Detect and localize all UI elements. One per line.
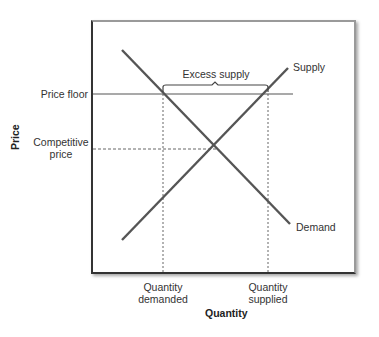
demand-label: Demand: [296, 221, 336, 233]
y-axis-title: Price: [9, 124, 21, 150]
competitive-price-label-line2: price: [30, 148, 92, 160]
supply-label: Supply: [293, 61, 325, 73]
competitive-price-label: Competitive price: [30, 136, 92, 160]
quantity-demanded-label: Quantity demanded: [133, 281, 193, 305]
price-floor-label: Price floor: [20, 88, 88, 100]
quantity-demanded-label-line2: demanded: [133, 293, 193, 305]
quantity-demanded-label-line1: Quantity: [133, 281, 193, 293]
quantity-supplied-label: Quantity supplied: [238, 281, 298, 305]
excess-supply-bracket: [163, 82, 268, 92]
excess-supply-label: Excess supply: [178, 68, 254, 80]
quantity-supplied-label-line1: Quantity: [238, 281, 298, 293]
competitive-price-label-line1: Competitive: [30, 136, 92, 148]
x-axis-title: Quantity: [205, 307, 248, 319]
quantity-supplied-label-line2: supplied: [238, 293, 298, 305]
